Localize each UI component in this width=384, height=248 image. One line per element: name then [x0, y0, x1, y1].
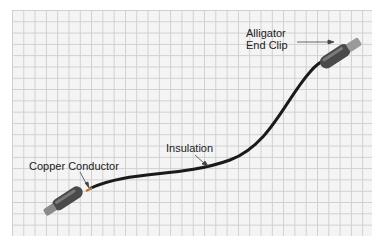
diagram-canvas — [0, 0, 384, 248]
copper-conductor-label: Copper Conductor — [29, 160, 119, 172]
insulation-label: Insulation — [166, 142, 213, 154]
clip-label-line-2: End Clip — [246, 39, 288, 51]
wire-insulation — [91, 60, 325, 188]
alligator-clip-label: Alligator End Clip — [246, 27, 288, 51]
right-alligator-clip — [317, 35, 363, 71]
left-alligator-clip — [42, 184, 85, 218]
clip-label-line-1: Alligator — [246, 27, 288, 39]
